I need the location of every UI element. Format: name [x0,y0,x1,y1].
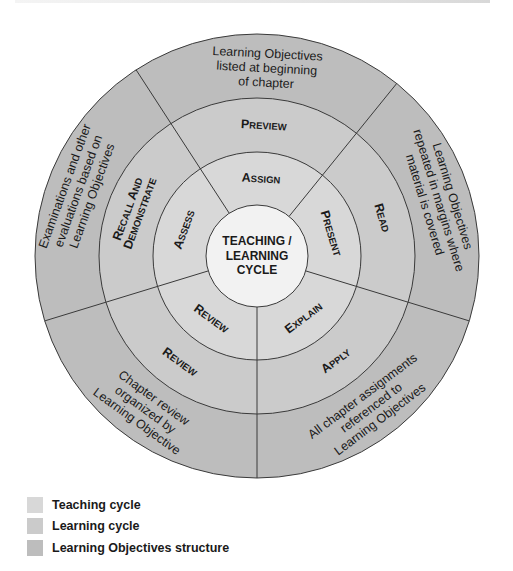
legend-swatch-teaching [27,497,43,513]
legend-label: Teaching cycle [52,498,141,512]
legend-swatch-learning [27,518,43,534]
legend-swatch-objectives [27,540,43,556]
legend-item-teaching-cycle: Teaching cycle [27,494,229,516]
svg-text:of chapter: of chapter [238,74,294,91]
legend-item-learning-objectives-structure: Learning Objectives structure [27,537,229,559]
legend-item-learning-cycle: Learning cycle [27,516,229,538]
legend-label: Learning cycle [52,519,140,533]
legend: Teaching cycle Learning cycle Learning O… [27,494,229,559]
teaching-learning-cycle-diagram: TEACHING /LEARNINGCYCLE ASSIGNPRESENTEXP… [0,0,513,490]
legend-label: Learning Objectives structure [52,541,229,555]
